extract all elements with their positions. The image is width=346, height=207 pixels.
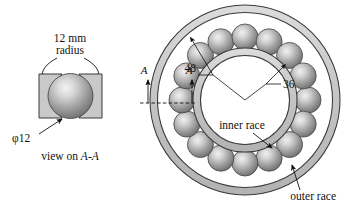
section-label-left: A: [140, 64, 148, 76]
radius-label-line2: radius: [56, 44, 85, 56]
diameter-label: φ12: [12, 132, 30, 145]
bearing-assembly-group: 48 36 A A inner race outer race: [140, 5, 340, 202]
bearing-ball: [295, 87, 321, 113]
outer-race-label: outer race: [290, 190, 336, 202]
bearing-ball: [232, 24, 258, 50]
detail-caption-prefix: view on: [41, 150, 81, 162]
detail-caption-section: A-A: [80, 150, 100, 162]
detail-ball: [48, 74, 93, 119]
detail-caption: view on A-A: [41, 150, 99, 162]
dim-36-label: 36: [283, 78, 295, 90]
detail-view-group: 12 mm radius φ12 view on A-A: [12, 32, 102, 162]
inner-race-label: inner race: [219, 119, 265, 131]
bearing-figure-svg: 12 mm radius φ12 view on A-A: [0, 0, 346, 207]
section-label-right: A: [185, 64, 193, 76]
figure-canvas: 12 mm radius φ12 view on A-A: [0, 0, 346, 207]
bearing-ball: [232, 150, 258, 176]
radius-label-line1: 12 mm: [54, 32, 86, 44]
bearing-ball: [169, 87, 195, 113]
diameter-leader: [39, 119, 62, 134]
